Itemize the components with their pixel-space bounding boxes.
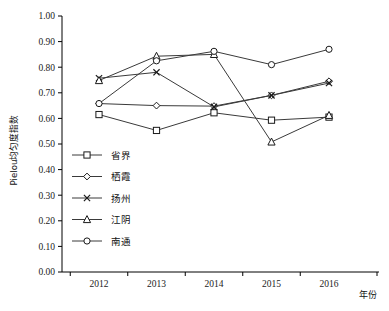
chart-axes — [62, 16, 379, 272]
legend-item-扬州[interactable]: 扬州 — [72, 193, 131, 204]
marker-circle-南通-2012 — [96, 100, 102, 106]
y-tick-label: 0.00 — [38, 267, 55, 277]
marker-square-省界-2012 — [96, 111, 102, 117]
marker-circle-南通-2014 — [211, 48, 217, 54]
y-tick-label: 0.60 — [38, 114, 55, 124]
chart-legend: 省界栖霞扬州江阴南通 — [72, 150, 131, 247]
y-tick-label: 0.90 — [38, 37, 55, 47]
legend-label-栖霞: 栖霞 — [111, 171, 131, 182]
marker-triangle-江阴-2015 — [268, 138, 275, 145]
y-tick-label: 0.30 — [38, 191, 55, 201]
legend-item-栖霞[interactable]: 栖霞 — [72, 171, 131, 182]
series-line-江阴 — [99, 54, 329, 142]
x-axis-ticks — [70, 272, 377, 276]
y-tick-label: 0.10 — [38, 242, 55, 252]
y-axis-ticks — [58, 16, 62, 272]
chart-container: 0.000.100.200.300.400.500.600.700.800.90… — [0, 0, 389, 311]
marker-diamond-legend-栖霞 — [84, 173, 91, 180]
marker-circle-南通-2013 — [153, 58, 159, 64]
chart-series-group — [95, 46, 332, 145]
legend-label-扬州: 扬州 — [111, 193, 131, 204]
y-axis-title: Pielou均匀度指数 — [8, 115, 19, 186]
legend-item-南通[interactable]: 南通 — [72, 236, 131, 247]
legend-item-省界[interactable]: 省界 — [72, 150, 131, 161]
marker-square-省界-2013 — [153, 127, 159, 133]
pielou-evenness-line-chart: 0.000.100.200.300.400.500.600.700.800.90… — [0, 0, 389, 311]
legend-label-南通: 南通 — [111, 236, 131, 247]
marker-square-省界-2015 — [268, 117, 274, 123]
y-tick-label: 0.50 — [38, 139, 55, 149]
y-axis-tick-labels: 0.000.100.200.300.400.500.600.700.800.90… — [38, 11, 55, 277]
marker-diamond-栖霞-2013 — [153, 102, 160, 109]
series-栖霞 — [96, 78, 333, 110]
y-tick-label: 0.70 — [38, 88, 55, 98]
x-tick-label: 2016 — [320, 279, 339, 289]
legend-label-江阴: 江阴 — [111, 214, 131, 225]
legend-item-江阴[interactable]: 江阴 — [72, 214, 131, 225]
y-tick-label: 1.00 — [38, 11, 55, 21]
marker-circle-南通-2016 — [326, 46, 332, 52]
x-tick-label: 2013 — [147, 279, 166, 289]
series-江阴 — [95, 51, 332, 146]
y-tick-label: 0.20 — [38, 216, 55, 226]
marker-circle-legend-南通 — [84, 238, 90, 244]
x-tick-label: 2015 — [262, 279, 281, 289]
y-tick-label: 0.40 — [38, 165, 55, 175]
marker-circle-南通-2015 — [268, 62, 274, 68]
marker-square-legend-省界 — [84, 152, 90, 158]
x-tick-label: 2012 — [90, 279, 109, 289]
x-tick-label: 2014 — [205, 279, 224, 289]
marker-square-省界-2014 — [211, 110, 217, 116]
x-axis-title: 年份 — [359, 289, 377, 300]
y-tick-label: 0.80 — [38, 63, 55, 73]
x-axis-tick-labels: 20122013201420152016 — [90, 279, 339, 289]
legend-label-省界: 省界 — [111, 150, 131, 161]
